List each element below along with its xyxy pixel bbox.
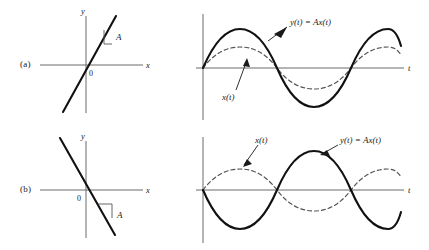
transfer-plot-b <box>40 138 143 238</box>
amplitude-scaling-figure: y x 0 A y(t) = Ax(t) x(t) t (a) <box>0 0 429 250</box>
origin-label-b: 0 <box>77 194 81 203</box>
waveform-plot-a <box>196 14 404 120</box>
leader-arrow-input-a <box>243 58 250 67</box>
panel-b-graphics: y x 0 A x(t) y(t) = Ax(t) t <box>0 125 429 250</box>
origin-label-a: 0 <box>89 69 93 78</box>
leader-arrow-input-b <box>243 159 252 167</box>
transfer-plot-a <box>40 16 143 113</box>
output-label-b: y(t) = Ax(t) <box>339 135 381 145</box>
leader-arrow-output-a <box>274 27 287 38</box>
panel-b: y x 0 A x(t) y(t) = Ax(t) t (b) <box>0 125 429 250</box>
x-axis-label-a: x <box>145 60 150 70</box>
waveform-plot-b <box>196 137 404 243</box>
y-axis-label-b: y <box>80 131 85 141</box>
t-axis-label-a: t <box>408 63 411 73</box>
y-axis-label-a: y <box>80 6 85 16</box>
panel-a: y x 0 A y(t) = Ax(t) x(t) t (a) <box>0 0 429 125</box>
t-axis-label-b: t <box>408 185 411 195</box>
input-label-a: x(t) <box>221 92 235 102</box>
slope-label-a: A <box>115 32 122 42</box>
x-axis-label-b: x <box>145 185 150 195</box>
transfer-line-b <box>60 138 115 235</box>
panel-a-graphics: y x 0 A y(t) = Ax(t) x(t) t <box>0 0 429 125</box>
input-label-b: x(t) <box>254 135 268 145</box>
transfer-line-a <box>63 16 116 112</box>
output-label-a: y(t) = Ax(t) <box>289 17 331 27</box>
row-label-b: (b) <box>20 184 31 194</box>
slope-label-b: A <box>116 210 123 220</box>
row-label-a: (a) <box>20 59 31 69</box>
